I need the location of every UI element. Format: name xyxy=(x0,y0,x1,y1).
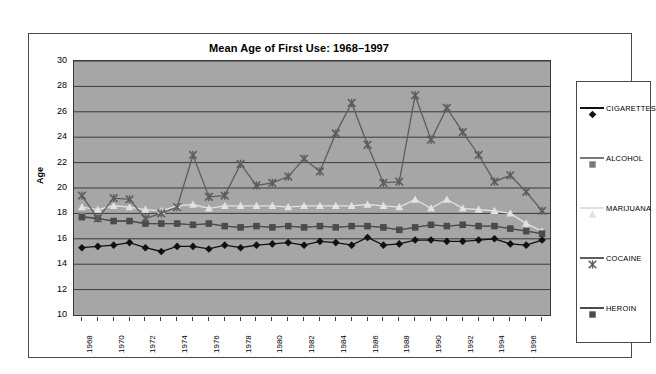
x-tick-mark xyxy=(113,317,114,321)
y-tick-label: 24 xyxy=(45,131,67,141)
legend-item-label: MARIJUANA xyxy=(606,204,651,213)
x-tick-mark xyxy=(144,317,145,321)
x-tick-mark xyxy=(129,317,130,321)
x-tick-label: 1974 xyxy=(180,335,189,353)
legend-marker-diamond-icon xyxy=(588,105,595,112)
x-tick-mark xyxy=(303,317,304,321)
y-axis-ticks: 3028262422201816141210 xyxy=(39,34,67,357)
x-tick-mark xyxy=(541,317,542,321)
legend-line-swatch xyxy=(580,157,604,159)
x-tick-mark xyxy=(240,317,241,321)
x-tick-label: 1992 xyxy=(466,335,475,353)
y-tick-label: 28 xyxy=(45,80,67,90)
x-tick-mark xyxy=(493,317,494,321)
y-tick-label: 10 xyxy=(45,309,67,319)
series-canvas xyxy=(74,61,550,315)
x-tick-mark xyxy=(271,317,272,321)
x-tick-mark xyxy=(97,317,98,321)
chart-area: Age 3028262422201816141210 1968197019721… xyxy=(29,34,569,357)
x-tick-mark xyxy=(414,317,415,321)
x-tick-label: 1972 xyxy=(148,335,157,353)
legend-item-heroin[interactable]: HEROIN xyxy=(580,300,650,316)
x-tick-label: 1988 xyxy=(402,335,411,353)
x-tick-label: 1986 xyxy=(371,335,380,353)
y-tick-label: 26 xyxy=(45,106,67,116)
legend-item-cigarettes[interactable]: CIGARETTES xyxy=(580,100,650,116)
x-tick-label: 1996 xyxy=(529,335,538,353)
x-tick-label: 1994 xyxy=(497,335,506,353)
legend-line-swatch xyxy=(580,257,604,259)
x-tick-label: 1970 xyxy=(117,335,126,353)
x-tick-mark xyxy=(509,317,510,321)
x-tick-mark xyxy=(192,317,193,321)
legend-item-cocaine[interactable]: COCAINE xyxy=(580,250,650,266)
legend-marker-triangle-icon xyxy=(588,205,595,212)
chart-frame: Mean Age of First Use: 1968–1997 Age 302… xyxy=(28,33,632,358)
x-tick-mark xyxy=(398,317,399,321)
x-tick-mark xyxy=(255,317,256,321)
plot-area xyxy=(73,60,551,316)
x-tick-mark xyxy=(351,317,352,321)
x-tick-label: 1982 xyxy=(307,335,316,353)
x-tick-mark xyxy=(446,317,447,321)
x-tick-mark xyxy=(81,317,82,321)
legend-marker-square-icon xyxy=(588,305,595,312)
series-cigarettes xyxy=(78,234,546,256)
series-cocaine xyxy=(78,91,546,223)
legend-item-label: HEROIN xyxy=(606,304,636,313)
y-tick-label: 22 xyxy=(45,157,67,167)
y-tick-label: 18 xyxy=(45,207,67,217)
x-tick-label: 1976 xyxy=(212,335,221,353)
x-tick-label: 1978 xyxy=(244,335,253,353)
y-tick-label: 12 xyxy=(45,284,67,294)
x-tick-label: 1980 xyxy=(275,335,284,353)
legend-item-label: ALCOHOL xyxy=(606,154,643,163)
x-tick-mark xyxy=(208,317,209,321)
x-tick-mark xyxy=(462,317,463,321)
x-axis-ticks: 1968197019721974197619781980198219841986… xyxy=(73,317,553,357)
chart-legend: CIGARETTESALCOHOLMARIJUANACOCAINEHEROIN xyxy=(576,81,651,343)
x-tick-label: 1984 xyxy=(339,335,348,353)
legend-marker-square-icon xyxy=(588,155,595,162)
y-tick-label: 14 xyxy=(45,258,67,268)
y-tick-label: 30 xyxy=(45,55,67,65)
x-tick-mark xyxy=(525,317,526,321)
x-tick-mark xyxy=(367,317,368,321)
x-tick-mark xyxy=(176,317,177,321)
x-tick-mark xyxy=(430,317,431,321)
x-tick-mark xyxy=(224,317,225,321)
legend-line-swatch xyxy=(580,207,604,209)
x-tick-mark xyxy=(160,317,161,321)
legend-line-swatch xyxy=(580,307,604,309)
series-alcohol xyxy=(79,213,546,237)
legend-line-swatch xyxy=(580,107,604,109)
x-tick-mark xyxy=(335,317,336,321)
legend-item-label: CIGARETTES xyxy=(606,104,656,113)
legend-item-label: COCAINE xyxy=(606,254,642,263)
y-tick-label: 16 xyxy=(45,233,67,243)
legend-marker-cross-icon xyxy=(588,255,595,262)
x-tick-mark xyxy=(478,317,479,321)
x-tick-mark xyxy=(319,317,320,321)
x-tick-label: 1990 xyxy=(434,335,443,353)
legend-item-alcohol[interactable]: ALCOHOL xyxy=(580,150,650,166)
x-tick-mark xyxy=(382,317,383,321)
x-tick-mark xyxy=(287,317,288,321)
x-tick-label: 1968 xyxy=(85,335,94,353)
y-tick-label: 20 xyxy=(45,182,67,192)
legend-item-marijuana[interactable]: MARIJUANA xyxy=(580,200,650,216)
